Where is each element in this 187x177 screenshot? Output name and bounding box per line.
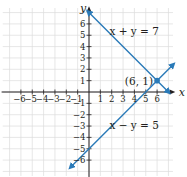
x-tick-label: 6: [154, 94, 159, 104]
x-tick-label: 2: [109, 94, 114, 104]
intersection-point: [154, 78, 160, 84]
y-axis-label: y: [79, 2, 87, 15]
y-tick-label: 1: [80, 76, 85, 86]
x-tick-label: 4: [132, 94, 137, 104]
y-tick-label: −1: [73, 98, 86, 108]
y-tick-label: 2: [80, 64, 85, 74]
y-tick-label: −5: [73, 144, 86, 154]
y-tick-label: 3: [80, 53, 85, 63]
equation-label-1: x + y = 7: [109, 25, 158, 37]
x-axis-arrow-icon: [170, 90, 176, 95]
y-axis-arrow-icon: [87, 6, 92, 12]
x-tick-label: 5: [143, 94, 148, 104]
graph-canvas: −6−5−4−3−2−1123456−6−5−4−3−2−1123456xy(6…: [0, 0, 187, 177]
equation-label-2: x − y = 5: [109, 119, 158, 131]
y-tick-label: 6: [80, 19, 85, 29]
y-tick-label: −3: [73, 121, 86, 131]
y-tick-label: 5: [80, 30, 85, 40]
x-tick-label: 3: [120, 94, 125, 104]
x-tick-label: 1: [98, 94, 103, 104]
y-tick-label: −4: [73, 132, 86, 142]
intersection-label: (6, 1): [125, 75, 153, 87]
linear-system-graph: −6−5−4−3−2−1123456−6−5−4−3−2−1123456xy(6…: [0, 0, 187, 177]
y-tick-label: −2: [73, 110, 86, 120]
x-axis-label: x: [179, 86, 186, 99]
y-tick-label: −6: [73, 155, 86, 165]
y-tick-label: 4: [80, 42, 85, 52]
